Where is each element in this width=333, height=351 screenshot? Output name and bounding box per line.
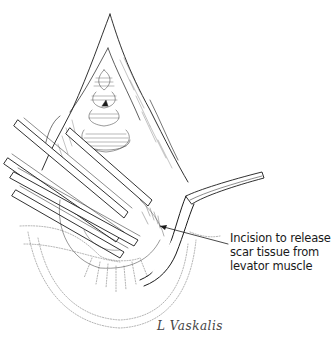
lower-region <box>20 226 220 328</box>
artist-signature: L Vaskalis <box>157 319 223 333</box>
callout-line-3: levator muscle <box>230 259 333 273</box>
callout-label: Incision to release scar tissue from lev… <box>230 231 333 273</box>
callout-line-2: scar tissue from <box>230 245 333 259</box>
tissue-outline <box>42 14 188 182</box>
callout-line-1: Incision to release <box>230 231 333 245</box>
retractor-blades <box>4 118 152 258</box>
tissue-hatching <box>58 58 172 168</box>
surgical-illustration <box>0 0 333 351</box>
